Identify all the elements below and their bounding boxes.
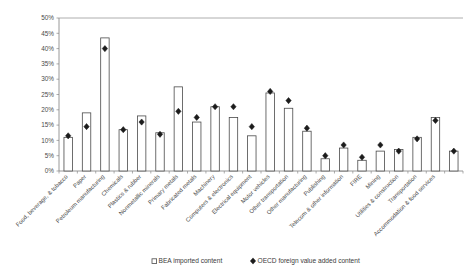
bar-imported-content xyxy=(413,137,421,171)
chart-canvas: 0%5%10%15%20%25%30%35%40%45%50% Food, be… xyxy=(0,0,470,276)
bar-imported-content xyxy=(266,93,274,171)
legend-label-bea: BEA imported content xyxy=(159,257,223,265)
marker-oecd-foreign-value-added xyxy=(359,154,364,160)
marker-oecd-foreign-value-added xyxy=(194,114,199,120)
bar-imported-content xyxy=(358,160,366,171)
bar-imported-content xyxy=(64,137,72,171)
diamond-icon xyxy=(250,258,255,264)
bar-imported-content xyxy=(193,122,201,171)
marker-oecd-foreign-value-added xyxy=(231,104,236,110)
marker-oecd-foreign-value-added xyxy=(323,153,328,159)
bar-imported-content xyxy=(248,136,256,171)
marker-oecd-foreign-value-added xyxy=(249,124,254,130)
y-axis-tick-label: 45% xyxy=(41,30,54,37)
bar-imported-content xyxy=(303,131,311,171)
bar-imported-content xyxy=(339,148,347,171)
marker-oecd-foreign-value-added xyxy=(341,142,346,148)
y-axis-tick-label: 5% xyxy=(45,152,55,159)
chart-legend: BEA imported contentOECD foreign value a… xyxy=(152,257,360,265)
x-axis-category-label: Mining xyxy=(365,173,382,190)
legend-label-oecd: OECD foreign value added content xyxy=(258,257,360,265)
x-axis-category-label: FIRE xyxy=(349,173,363,187)
bar-imported-content xyxy=(431,117,439,171)
y-axis-tick-label: 20% xyxy=(41,106,54,113)
y-axis-tick-label: 25% xyxy=(41,91,54,98)
y-axis-tick-label: 35% xyxy=(41,60,54,67)
bar-imported-content xyxy=(174,87,182,171)
bar-imported-content xyxy=(321,159,329,171)
bar-imported-content xyxy=(156,133,164,171)
x-axis-category-label: Paper xyxy=(72,173,87,188)
bar-imported-content xyxy=(82,113,90,171)
bar-imported-content xyxy=(119,130,127,171)
square-outline-icon xyxy=(152,259,157,264)
x-axis-label-group: Food, beverage, & tobaccoPaperPetroleum … xyxy=(15,173,437,237)
y-axis-tick-group: 0%5%10%15%20%25%30%35%40%45%50% xyxy=(41,14,59,174)
bar-imported-content xyxy=(284,108,292,171)
chart-container: 0%5%10%15%20%25%30%35%40%45%50% Food, be… xyxy=(0,0,470,276)
bar-imported-content xyxy=(211,107,219,171)
bar-imported-content xyxy=(101,38,109,171)
y-axis-tick-label: 40% xyxy=(41,45,54,52)
y-axis-tick-label: 0% xyxy=(45,167,55,174)
x-axis-category-label: Plastics & rubber xyxy=(107,173,143,209)
y-axis-tick-label: 30% xyxy=(41,75,54,82)
bar-imported-content xyxy=(229,117,237,171)
marker-oecd-foreign-value-added xyxy=(378,142,383,148)
bar-imported-content xyxy=(376,151,384,171)
y-axis-tick-label: 15% xyxy=(41,121,54,128)
y-axis-tick-label: 10% xyxy=(41,137,54,144)
marker-oecd-foreign-value-added xyxy=(304,125,309,131)
y-axis-tick-label: 50% xyxy=(41,14,54,21)
marker-oecd-foreign-value-added xyxy=(286,98,291,104)
